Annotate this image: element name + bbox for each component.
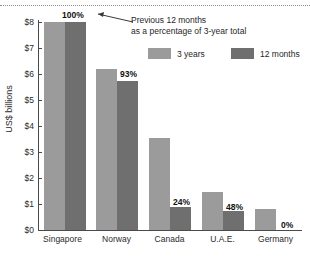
y-tick-label-wrap-1: $1 [12,200,34,201]
y-tick-label-wrap-3: $3 [12,148,34,149]
bar-canada-12-months[interactable] [170,207,191,230]
x-tick-label-singapore: Singapore [35,234,90,244]
bar-norway-12-months[interactable] [117,81,138,230]
bar-uae-3-years[interactable] [202,192,223,230]
y-tick-label-1: $1 [14,200,34,209]
chart-legend: 3 years 12 months [148,47,308,61]
bar-group-norway [96,22,138,230]
annotation-line-1: Previous 12 months [131,15,246,26]
annotation-line-2: as a percentage of 3-year total [131,26,246,37]
data-label-norway: 93% [120,70,137,79]
y-tick-label-wrap-5: $5 [12,96,34,97]
y-tick-label-3: $3 [14,148,34,157]
data-label-uae: 48% [226,203,243,212]
legend-label-12-months: 12 months [260,49,300,59]
x-tick-label-germany: Germany [248,234,303,244]
y-tick-label-4: $4 [14,122,34,131]
annotation-text: Previous 12 months as a percentage of 3-… [131,15,246,37]
top-divider-rule [0,5,310,6]
data-label-germany: 0% [281,221,293,230]
bar-canada-3-years[interactable] [149,138,170,230]
chart-figure: US$ billions $8 $7 $6 $5 $4 $3 $2 $1 $0 [0,0,310,263]
y-tick-label-0: $0 [14,226,34,235]
bar-group-singapore [44,22,86,230]
y-tick-label-wrap-2: $2 [12,174,34,175]
annotation-arrow-icon [80,10,135,28]
y-tick-label-2: $2 [14,174,34,183]
bar-singapore-3-years[interactable] [44,22,65,230]
y-tick-label-wrap-8: $8 [12,18,34,19]
x-tick-label-canada: Canada [142,234,197,244]
legend-label-3-years: 3 years [177,49,205,59]
y-tick-label-7: $7 [14,44,34,53]
legend-swatch-3-years [148,48,171,59]
x-tick-label-norway: Norway [89,234,144,244]
legend-item-12-months[interactable]: 12 months [231,47,310,61]
y-tick-label-wrap-0: $0 [12,226,34,227]
y-tick-label-wrap-4: $4 [12,122,34,123]
y-tick-label-5: $5 [14,96,34,105]
data-label-canada: 24% [173,198,190,207]
x-tick-label-uae: U.A.E. [195,234,250,244]
y-tick-label-wrap-7: $7 [12,44,34,45]
y-tick-0 [38,230,42,231]
y-axis-label: US$ billions [4,63,14,155]
y-tick-label-8: $8 [14,18,34,27]
y-tick-label-wrap-6: $6 [12,70,34,71]
bar-uae-12-months[interactable] [223,211,244,230]
bar-norway-3-years[interactable] [96,69,117,230]
bar-germany-3-years[interactable] [255,209,276,230]
legend-swatch-12-months [231,48,254,59]
x-axis-line [38,230,302,231]
legend-item-3-years[interactable]: 3 years [148,47,223,61]
bar-singapore-12-months[interactable] [65,22,86,230]
y-tick-label-6: $6 [14,70,34,79]
